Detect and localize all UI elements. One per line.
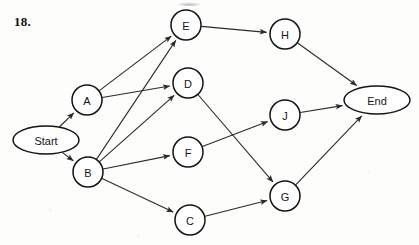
node-label-start: Start	[34, 135, 57, 147]
edge-layer	[60, 26, 362, 216]
edge-start-to-a	[60, 113, 74, 127]
edge-c-to-g	[205, 201, 267, 217]
node-label-b: B	[84, 167, 91, 179]
node-label-e: E	[182, 20, 189, 32]
node-label-a: A	[83, 95, 91, 107]
node-label-g: G	[281, 191, 290, 203]
node-h[interactable]: H	[270, 19, 300, 49]
node-label-c: C	[186, 215, 194, 227]
node-e[interactable]: E	[171, 10, 201, 40]
node-label-d: D	[184, 78, 192, 90]
node-g[interactable]: G	[270, 181, 300, 211]
node-d[interactable]: D	[173, 68, 203, 98]
edge-d-to-g	[198, 95, 273, 182]
edge-e-to-h	[201, 26, 266, 32]
edge-j-to-end	[300, 106, 342, 113]
node-start[interactable]: Start	[13, 126, 79, 154]
edge-g-to-end	[296, 116, 362, 185]
node-label-h: H	[281, 29, 289, 41]
edge-h-to-end	[298, 43, 357, 85]
edge-b-to-c	[102, 179, 173, 213]
edge-b-to-e	[97, 40, 176, 159]
edge-b-to-d	[100, 95, 175, 161]
edge-f-to-j	[202, 122, 267, 147]
node-b[interactable]: B	[73, 157, 103, 187]
node-a[interactable]: A	[72, 85, 102, 115]
node-c[interactable]: C	[175, 205, 205, 235]
node-j[interactable]: J	[270, 100, 300, 130]
edge-b-to-f	[103, 156, 170, 169]
edge-start-to-b	[63, 153, 74, 161]
activity-network-diagram: StartABEDFCHJGEnd	[0, 0, 419, 245]
node-label-end: End	[367, 95, 387, 107]
node-label-j: J	[282, 110, 288, 122]
node-layer: StartABEDFCHJGEnd	[13, 10, 410, 235]
edge-a-to-d	[102, 86, 169, 97]
node-f[interactable]: F	[173, 137, 203, 167]
node-end[interactable]: End	[344, 86, 410, 114]
node-label-f: F	[185, 147, 192, 159]
diagram-page: 18. StartABEDFCHJGEnd	[0, 0, 419, 245]
